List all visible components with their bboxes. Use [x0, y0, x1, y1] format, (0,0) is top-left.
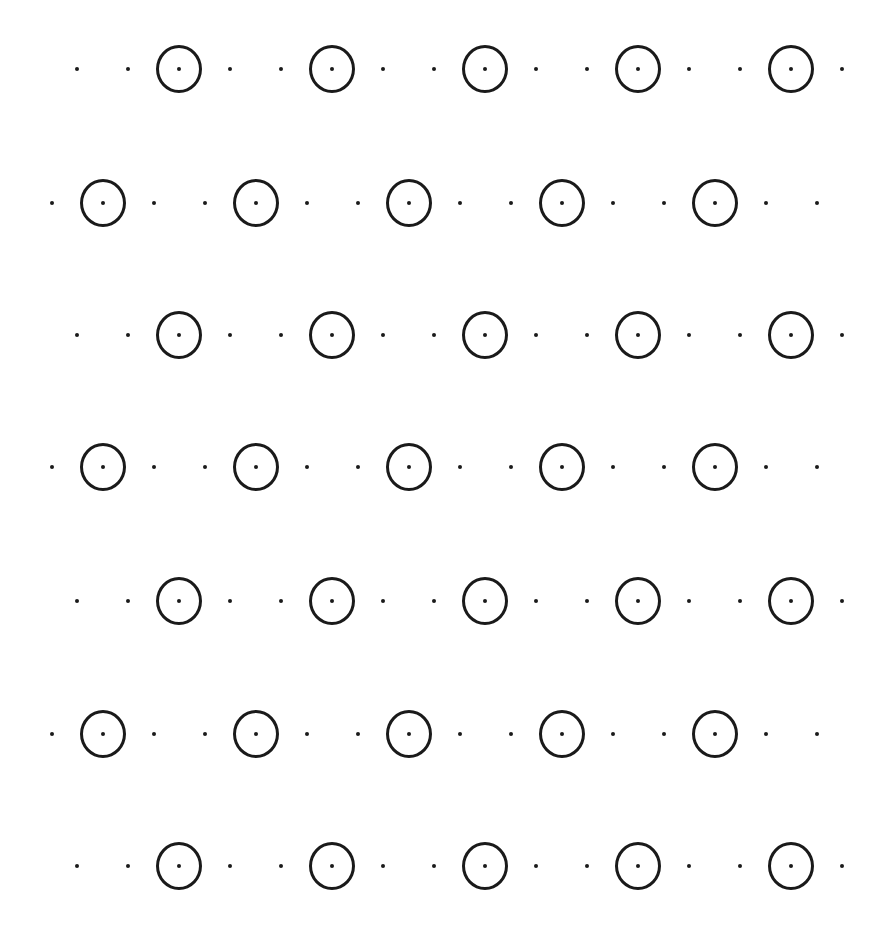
circled-dot-icon [539, 443, 585, 491]
dot-icon [381, 333, 385, 337]
circled-dot-icon [386, 443, 432, 491]
center-dot-icon [330, 864, 334, 868]
circled-dot-icon [156, 577, 202, 625]
dot-icon [75, 599, 79, 603]
dot-icon [126, 333, 130, 337]
circled-dot-icon [462, 311, 508, 359]
dot-icon [509, 732, 513, 736]
circled-dot-icon [80, 179, 126, 227]
dot-icon [75, 67, 79, 71]
center-dot-icon [254, 732, 258, 736]
dot-icon [305, 732, 309, 736]
dot-icon [611, 732, 615, 736]
center-dot-icon [254, 201, 258, 205]
dot-icon [764, 465, 768, 469]
dot-icon [152, 732, 156, 736]
dot-icon [126, 864, 130, 868]
center-dot-icon [407, 201, 411, 205]
circled-dot-icon [539, 710, 585, 758]
dot-icon [840, 333, 844, 337]
center-dot-icon [713, 201, 717, 205]
dot-icon [203, 732, 207, 736]
circled-dot-icon [768, 45, 814, 93]
center-dot-icon [330, 67, 334, 71]
dot-icon [50, 732, 54, 736]
dot-icon [662, 201, 666, 205]
dot-icon [279, 599, 283, 603]
circled-dot-icon [692, 443, 738, 491]
dot-icon [611, 201, 615, 205]
circled-dot-icon [615, 842, 661, 890]
dot-icon [305, 201, 309, 205]
dot-icon [75, 864, 79, 868]
dot-icon [687, 67, 691, 71]
center-dot-icon [177, 67, 181, 71]
center-dot-icon [636, 864, 640, 868]
dot-icon [738, 333, 742, 337]
circled-dot-icon [692, 710, 738, 758]
center-dot-icon [560, 201, 564, 205]
dot-icon [534, 599, 538, 603]
dot-icon [764, 201, 768, 205]
dot-circle-pattern [0, 0, 892, 927]
dot-icon [228, 333, 232, 337]
center-dot-icon [560, 732, 564, 736]
center-dot-icon [713, 732, 717, 736]
circled-dot-icon [615, 311, 661, 359]
dot-icon [534, 67, 538, 71]
circled-dot-icon [233, 710, 279, 758]
dot-icon [356, 465, 360, 469]
dot-icon [738, 67, 742, 71]
dot-icon [687, 864, 691, 868]
circled-dot-icon [768, 311, 814, 359]
center-dot-icon [101, 201, 105, 205]
circled-dot-icon [156, 311, 202, 359]
dot-icon [840, 67, 844, 71]
dot-icon [381, 67, 385, 71]
dot-icon [687, 599, 691, 603]
dot-icon [432, 864, 436, 868]
circled-dot-icon [156, 45, 202, 93]
center-dot-icon [483, 864, 487, 868]
dot-icon [279, 864, 283, 868]
dot-icon [305, 465, 309, 469]
circled-dot-icon [233, 443, 279, 491]
circled-dot-icon [156, 842, 202, 890]
dot-icon [534, 864, 538, 868]
dot-icon [279, 67, 283, 71]
dot-icon [738, 864, 742, 868]
center-dot-icon [560, 465, 564, 469]
circled-dot-icon [386, 179, 432, 227]
dot-icon [687, 333, 691, 337]
dot-icon [356, 201, 360, 205]
dot-icon [228, 67, 232, 71]
circled-dot-icon [309, 311, 355, 359]
dot-icon [75, 333, 79, 337]
dot-icon [279, 333, 283, 337]
dot-icon [381, 864, 385, 868]
center-dot-icon [177, 333, 181, 337]
dot-icon [815, 465, 819, 469]
center-dot-icon [636, 333, 640, 337]
center-dot-icon [177, 599, 181, 603]
dot-icon [840, 599, 844, 603]
dot-icon [662, 732, 666, 736]
dot-icon [585, 599, 589, 603]
dot-icon [509, 465, 513, 469]
center-dot-icon [636, 599, 640, 603]
dot-icon [203, 201, 207, 205]
circled-dot-icon [309, 45, 355, 93]
dot-icon [611, 465, 615, 469]
dot-icon [152, 201, 156, 205]
dot-icon [203, 465, 207, 469]
circled-dot-icon [462, 577, 508, 625]
center-dot-icon [636, 67, 640, 71]
center-dot-icon [177, 864, 181, 868]
circled-dot-icon [615, 577, 661, 625]
dot-icon [815, 732, 819, 736]
dot-icon [840, 864, 844, 868]
dot-icon [126, 599, 130, 603]
dot-icon [381, 599, 385, 603]
dot-icon [458, 201, 462, 205]
dot-icon [228, 599, 232, 603]
